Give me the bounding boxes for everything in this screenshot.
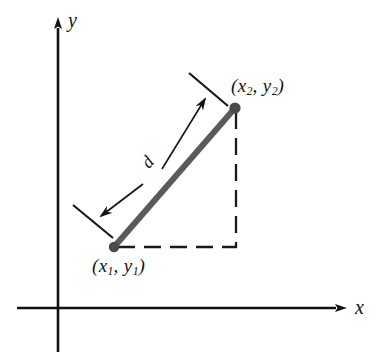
p1-comma: ,: [113, 255, 123, 276]
p1-x-subscript: 1: [108, 265, 114, 278]
p2-y-subscript: 2: [272, 85, 278, 98]
dimension-line-upper: [162, 99, 205, 169]
y-axis-label: y: [68, 10, 77, 30]
endpoint-dot-p1: [109, 242, 119, 252]
p2-comma: ,: [252, 75, 262, 96]
dimension-tick-lower: [73, 205, 113, 238]
p2-y-var: y: [263, 75, 272, 96]
endpoint-dot-p2: [229, 102, 240, 113]
dimension-tick-upper: [189, 73, 228, 106]
distance-formula-figure: y x (x2, y2) (x1, y1) d: [0, 0, 379, 363]
p1-close-paren: ): [139, 255, 146, 276]
diagram-canvas: [0, 0, 379, 363]
x-axis-label: x: [355, 297, 364, 317]
p2-open-paren: (: [231, 75, 238, 96]
p1-y-subscript: 1: [133, 265, 139, 278]
p1-y-var: y: [124, 255, 133, 276]
point-label-p2: (x2, y2): [231, 76, 284, 95]
point-label-p1: (x1, y1): [92, 256, 145, 275]
p1-open-paren: (: [92, 255, 99, 276]
p1-x-var: x: [99, 255, 108, 276]
distance-segment: [114, 108, 235, 247]
p2-x-subscript: 2: [247, 85, 253, 98]
p2-x-var: x: [238, 75, 247, 96]
p2-close-paren: ): [278, 75, 285, 96]
dimension-line-lower: [101, 184, 143, 216]
